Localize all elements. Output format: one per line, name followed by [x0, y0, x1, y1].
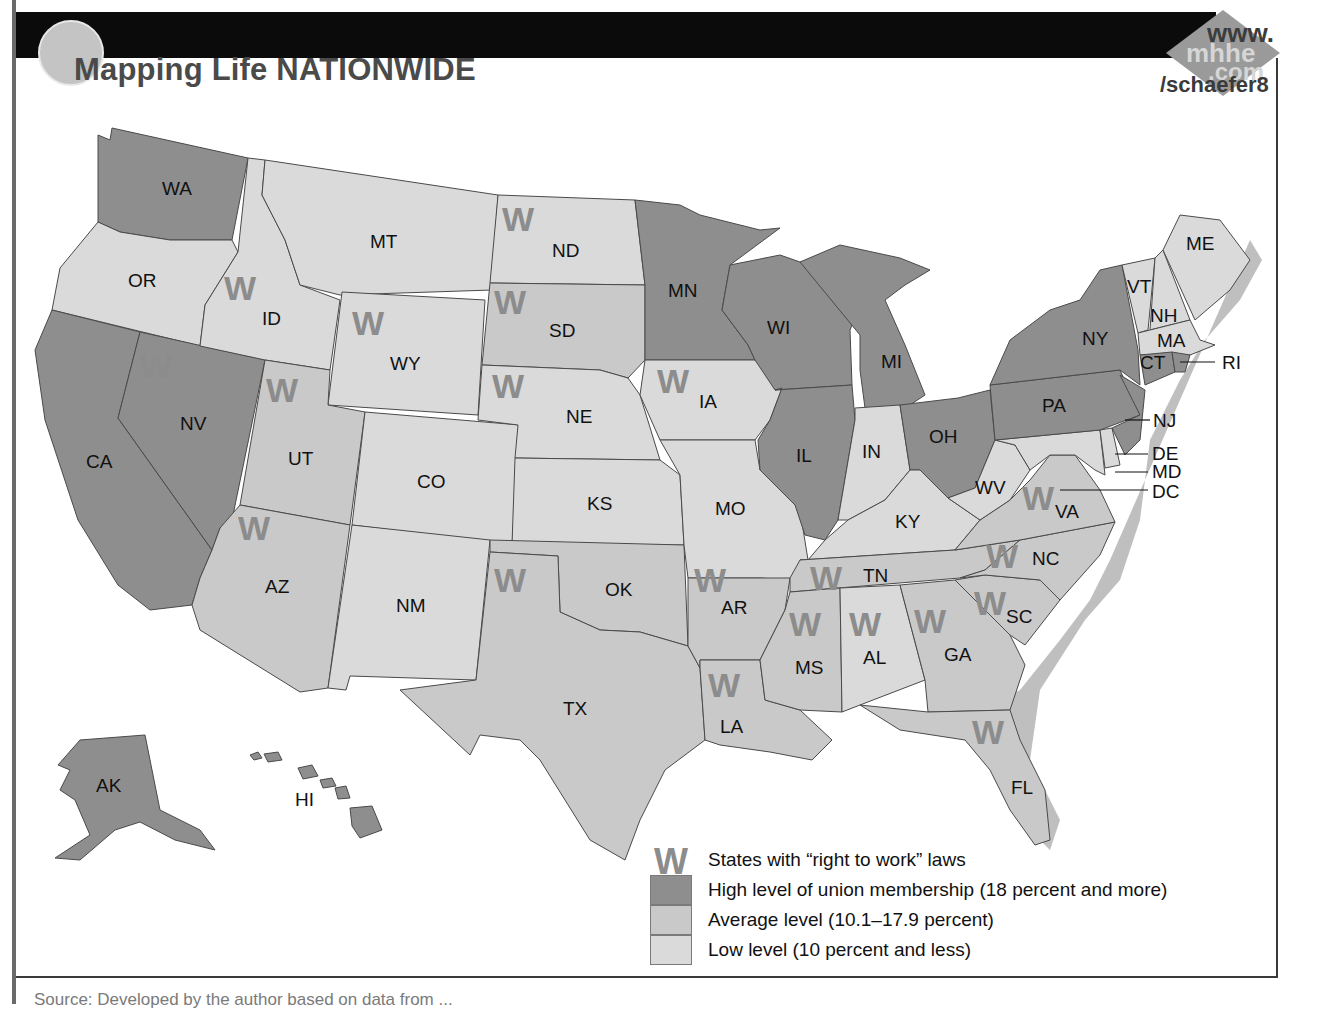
- svg-text:MA: MA: [1157, 330, 1186, 351]
- svg-text:DC: DC: [1152, 481, 1179, 502]
- svg-text:AZ: AZ: [265, 576, 290, 597]
- svg-text:AL: AL: [863, 647, 886, 668]
- svg-text:UT: UT: [288, 448, 314, 469]
- svg-text:AK: AK: [96, 775, 122, 796]
- svg-text:OR: OR: [128, 270, 157, 291]
- legend-item-average: Average level (10.1–17.9 percent): [650, 905, 1250, 935]
- svg-text:KY: KY: [895, 511, 921, 532]
- legend-item-low: Low level (10 percent and less): [650, 935, 1250, 965]
- svg-text:W: W: [352, 304, 385, 342]
- svg-text:WI: WI: [767, 317, 790, 338]
- svg-text:W: W: [914, 602, 947, 640]
- svg-text:W: W: [972, 713, 1005, 751]
- svg-text:VT: VT: [1127, 276, 1152, 297]
- svg-text:NC: NC: [1032, 548, 1059, 569]
- svg-text:W: W: [266, 371, 299, 409]
- svg-text:W: W: [494, 283, 527, 321]
- svg-text:WY: WY: [390, 353, 421, 374]
- legend-label: Average level (10.1–17.9 percent): [708, 909, 994, 931]
- svg-text:NJ: NJ: [1153, 410, 1176, 431]
- source-note: Source: Developed by the author based on…: [34, 990, 453, 1010]
- state-AK[interactable]: [55, 735, 215, 860]
- svg-text:W: W: [492, 367, 525, 405]
- svg-text:W: W: [502, 200, 535, 238]
- svg-text:W: W: [974, 584, 1007, 622]
- svg-text:W: W: [1022, 479, 1055, 517]
- svg-text:ND: ND: [552, 240, 579, 261]
- state-MT[interactable]: [262, 160, 498, 295]
- svg-text:CT: CT: [1140, 352, 1166, 373]
- svg-text:NE: NE: [566, 406, 592, 427]
- state-HI[interactable]: [250, 752, 382, 838]
- svg-text:NV: NV: [180, 413, 207, 434]
- svg-text:GA: GA: [944, 644, 972, 665]
- svg-text:MO: MO: [715, 498, 746, 519]
- svg-text:WA: WA: [162, 178, 192, 199]
- svg-text:ME: ME: [1186, 233, 1215, 254]
- svg-text:OH: OH: [929, 426, 958, 447]
- svg-text:HI: HI: [295, 789, 314, 810]
- svg-text:W: W: [657, 362, 690, 400]
- svg-text:NY: NY: [1082, 328, 1109, 349]
- svg-text:SD: SD: [549, 320, 575, 341]
- svg-text:W: W: [494, 561, 527, 599]
- svg-text:W: W: [849, 605, 882, 643]
- svg-text:W: W: [238, 509, 271, 547]
- svg-text:W: W: [789, 605, 822, 643]
- svg-text:W: W: [694, 561, 727, 599]
- svg-text:KS: KS: [587, 493, 612, 514]
- svg-text:SC: SC: [1006, 606, 1032, 627]
- svg-text:FL: FL: [1011, 777, 1033, 798]
- svg-text:CA: CA: [86, 451, 113, 472]
- svg-text:IA: IA: [699, 391, 717, 412]
- svg-text:TN: TN: [863, 565, 888, 586]
- svg-text:NH: NH: [1150, 305, 1177, 326]
- svg-text:ID: ID: [262, 308, 281, 329]
- svg-text:AR: AR: [721, 597, 747, 618]
- svg-text:IL: IL: [796, 445, 812, 466]
- legend-label: Low level (10 percent and less): [708, 939, 971, 961]
- low-level-swatch: [650, 935, 692, 965]
- svg-text:NM: NM: [396, 595, 426, 616]
- legend-item-high: High level of union membership (18 perce…: [650, 875, 1250, 905]
- state-NY[interactable]: [990, 265, 1140, 385]
- svg-text:W: W: [140, 347, 173, 385]
- svg-text:W: W: [986, 537, 1019, 575]
- legend-label: High level of union membership (18 perce…: [708, 879, 1167, 901]
- svg-text:W: W: [810, 559, 843, 597]
- svg-text:MS: MS: [795, 657, 824, 678]
- svg-text:MI: MI: [881, 351, 902, 372]
- svg-text:MT: MT: [370, 231, 398, 252]
- svg-text:MN: MN: [668, 280, 698, 301]
- svg-text:RI: RI: [1222, 352, 1241, 373]
- svg-text:VA: VA: [1055, 501, 1079, 522]
- svg-text:LA: LA: [720, 716, 744, 737]
- svg-text:CO: CO: [417, 471, 446, 492]
- average-level-swatch: [650, 905, 692, 935]
- svg-text:W: W: [224, 269, 257, 307]
- svg-text:WV: WV: [975, 477, 1006, 498]
- svg-text:W: W: [708, 666, 741, 704]
- legend-item-right-to-work: W States with “right to work” laws: [650, 845, 1250, 875]
- svg-text:PA: PA: [1042, 395, 1066, 416]
- svg-text:IN: IN: [862, 441, 881, 462]
- high-level-swatch: [650, 875, 692, 905]
- svg-text:TX: TX: [563, 698, 588, 719]
- legend-label: States with “right to work” laws: [708, 849, 966, 871]
- svg-text:OK: OK: [605, 579, 633, 600]
- svg-text:MD: MD: [1152, 461, 1182, 482]
